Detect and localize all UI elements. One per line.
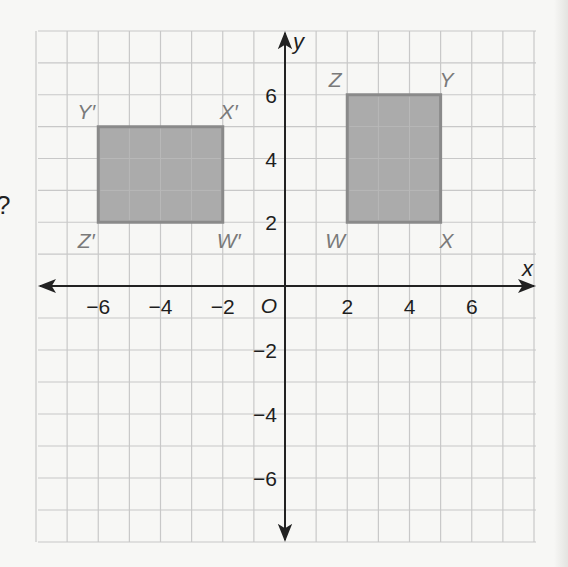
coordinate-plane-figure: ? WXYZW′X′Y′Z′xyO−6−4−2246642−2−4−6 bbox=[0, 0, 568, 567]
vertex-label: X bbox=[439, 229, 455, 252]
axes-layer bbox=[40, 33, 534, 540]
x-tick-label: 4 bbox=[404, 295, 416, 318]
coordinate-plane: WXYZW′X′Y′Z′xyO−6−4−2246642−2−4−6 bbox=[0, 0, 568, 567]
y-tick-label: −6 bbox=[253, 467, 277, 490]
y-tick-label: 6 bbox=[265, 84, 277, 107]
vertex-label: X′ bbox=[219, 100, 239, 123]
vertex-label: Z′ bbox=[77, 229, 96, 252]
x-tick-label: −6 bbox=[86, 295, 110, 318]
x-tick-label: −4 bbox=[149, 295, 173, 318]
y-tick-label: −2 bbox=[253, 339, 277, 362]
vertex-label: W′ bbox=[217, 229, 242, 252]
vertex-label: W bbox=[325, 229, 347, 252]
page-edge-shadow bbox=[554, 0, 568, 567]
vertex-label: Y bbox=[440, 68, 456, 91]
x-tick-label: −2 bbox=[211, 295, 235, 318]
y-tick-label: 4 bbox=[265, 148, 277, 171]
margin-question-mark: ? bbox=[0, 190, 10, 221]
x-tick-label: 2 bbox=[341, 295, 353, 318]
y-axis-label: y bbox=[291, 29, 306, 54]
x-axis-label: x bbox=[521, 256, 534, 281]
origin-label: O bbox=[261, 294, 277, 317]
vertex-label: Y′ bbox=[77, 100, 96, 123]
labels-layer: WXYZW′X′Y′Z′xyO−6−4−2246642−2−4−6 bbox=[77, 29, 534, 490]
y-tick-label: −4 bbox=[253, 403, 277, 426]
vertex-label: Z bbox=[328, 68, 343, 91]
y-tick-label: 2 bbox=[265, 211, 277, 234]
x-tick-label: 6 bbox=[466, 295, 478, 318]
